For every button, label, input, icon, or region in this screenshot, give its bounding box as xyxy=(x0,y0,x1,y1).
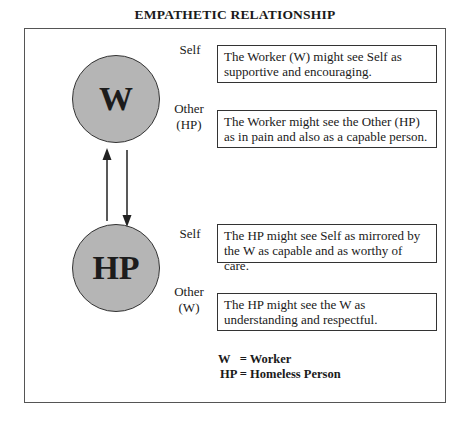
hp-other-label-line1: Other xyxy=(168,284,210,300)
w-other-text: The Worker might see the Other (HP) as i… xyxy=(224,114,427,144)
legend-homeless-person: HP = Homeless Person xyxy=(218,367,341,382)
legend-worker: W = Worker xyxy=(218,352,341,367)
w-other-label-line2: (HP) xyxy=(168,117,210,133)
hp-other-box: The HP might see the W as understanding … xyxy=(217,293,437,331)
hp-other-label: Other (W) xyxy=(168,284,210,316)
w-self-box: The Worker (W) might see Self as support… xyxy=(217,45,437,83)
w-other-box: The Worker might see the Other (HP) as i… xyxy=(217,110,437,148)
w-other-label-line1: Other xyxy=(168,101,210,117)
hp-other-text: The HP might see the W as understanding … xyxy=(224,297,377,327)
w-self-label: Self xyxy=(172,42,208,58)
hp-self-box: The HP might see Self as mirrored by the… xyxy=(217,224,437,263)
legend: W = Worker HP = Homeless Person xyxy=(218,352,341,382)
w-other-label: Other (HP) xyxy=(168,101,210,133)
hp-other-label-line2: (W) xyxy=(168,300,210,316)
hp-self-label: Self xyxy=(172,226,208,242)
w-self-text: The Worker (W) might see Self as support… xyxy=(224,49,402,79)
